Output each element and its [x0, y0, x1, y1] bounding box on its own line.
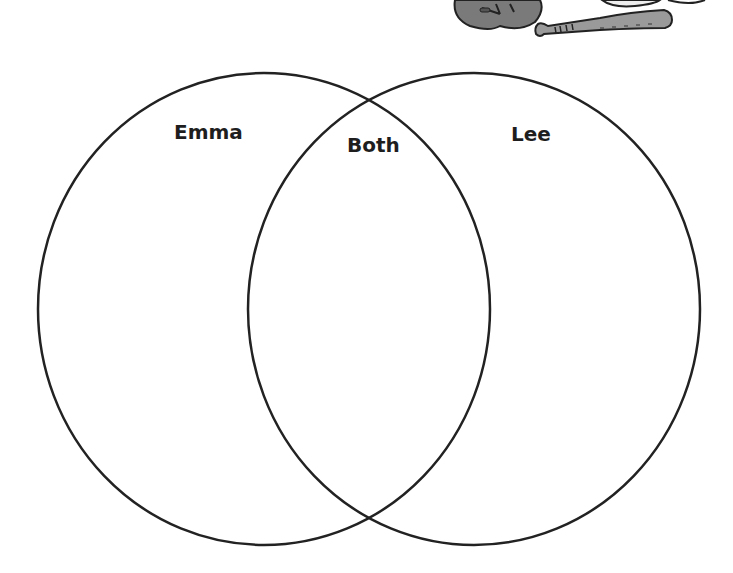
baseball-bat-icon	[535, 10, 672, 36]
lee-circle	[248, 73, 700, 545]
baseball-glove-icon	[455, 0, 542, 29]
baseball-icon	[602, 0, 705, 6]
emma-circle	[38, 73, 490, 545]
emma-label: Emma	[174, 120, 243, 144]
venn-diagram	[0, 0, 733, 573]
lee-label: Lee	[511, 122, 551, 146]
both-label: Both	[347, 133, 400, 157]
